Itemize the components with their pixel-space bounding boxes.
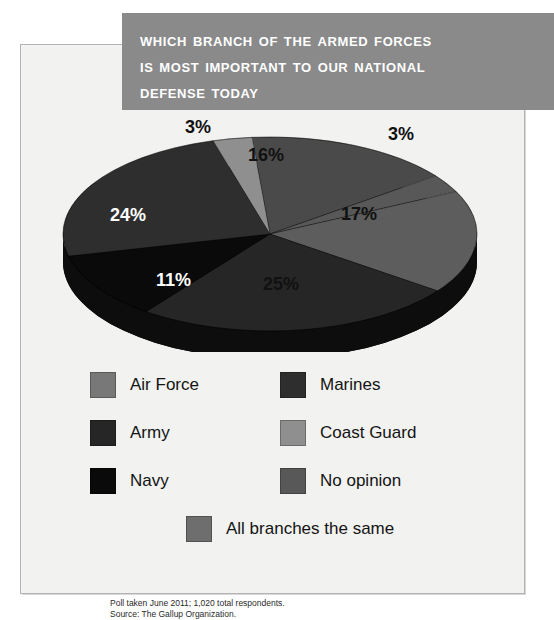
legend-label-all-branches: All branches the same xyxy=(226,519,394,539)
legend-label-coast-guard: Coast Guard xyxy=(320,423,416,443)
pie-slices xyxy=(63,137,477,331)
title-line-1: Which Branch of the Armed Forces xyxy=(140,27,544,53)
legend-item-navy[interactable]: Navy xyxy=(90,468,280,494)
legend-item-all-branches[interactable]: All branches the same xyxy=(90,516,490,542)
legend-label-marines: Marines xyxy=(320,375,380,395)
legend-grid: Air ForceMarinesArmyCoast GuardNavyNo op… xyxy=(90,372,490,494)
pct-label-no-opinion: 3% xyxy=(388,124,414,145)
legend-label-army: Army xyxy=(130,423,170,443)
legend-item-army[interactable]: Army xyxy=(90,420,280,446)
legend-item-marines[interactable]: Marines xyxy=(280,372,470,398)
title-line-3: Defense Today xyxy=(140,79,544,105)
pct-label-army: 25% xyxy=(263,274,299,295)
legend-item-no-opinion[interactable]: No opinion xyxy=(280,468,470,494)
title-line-2: Is Most Important to Our National xyxy=(140,53,544,79)
legend-label-air-force: Air Force xyxy=(130,375,199,395)
legend-swatch-marines xyxy=(280,372,306,398)
footnote-line-2: Source: The Gallup Organization. xyxy=(110,609,285,620)
footnote: Poll taken June 2011; 1,020 total respon… xyxy=(110,598,285,620)
legend-swatch-coast-guard xyxy=(280,420,306,446)
legend-swatch-no-opinion xyxy=(280,468,306,494)
chart-area: 3% 3% 16% 17% 24% 11% 25% Air ForceMarin… xyxy=(20,44,525,594)
pct-label-marines: 24% xyxy=(110,205,146,226)
legend-swatch-army xyxy=(90,420,116,446)
pct-label-all-branches: 16% xyxy=(248,145,284,166)
pct-label-coast-guard: 3% xyxy=(185,117,211,138)
footnote-line-1: Poll taken June 2011; 1,020 total respon… xyxy=(110,598,285,609)
pie-chart: 3% 3% 16% 17% 24% 11% 25% xyxy=(58,122,483,352)
legend-swatch-navy xyxy=(90,468,116,494)
legend: Air ForceMarinesArmyCoast GuardNavyNo op… xyxy=(90,372,490,542)
legend-label-no-opinion: No opinion xyxy=(320,471,401,491)
legend-swatch-air-force xyxy=(90,372,116,398)
pct-label-navy: 11% xyxy=(156,270,191,291)
title-banner: Which Branch of the Armed Forces Is Most… xyxy=(122,13,554,110)
legend-item-air-force[interactable]: Air Force xyxy=(90,372,280,398)
legend-swatch-all-branches xyxy=(186,516,212,542)
legend-label-navy: Navy xyxy=(130,471,169,491)
pct-label-air-force: 17% xyxy=(341,204,377,225)
legend-item-coast-guard[interactable]: Coast Guard xyxy=(280,420,470,446)
